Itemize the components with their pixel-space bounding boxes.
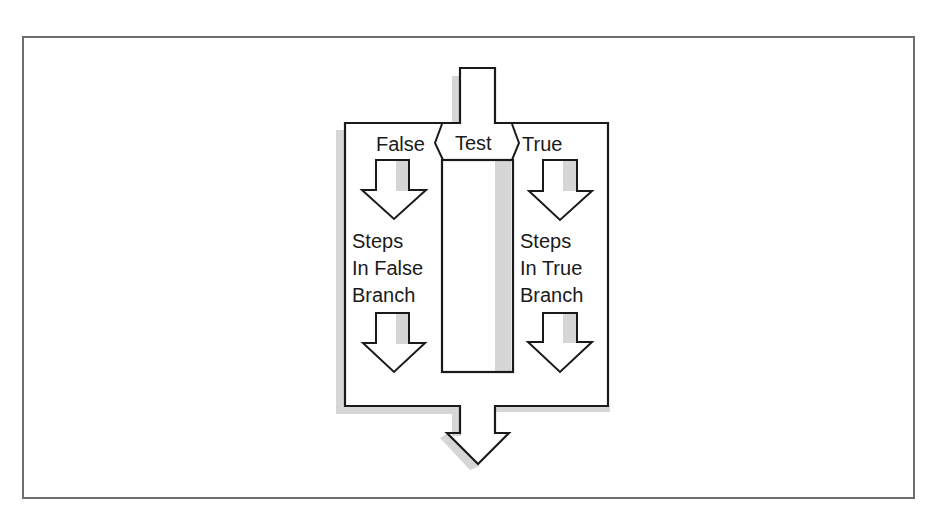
false-branch-text-line-2: In False bbox=[352, 257, 423, 279]
false-branch-text-line-3: Branch bbox=[352, 284, 415, 306]
false-branch-arrow-top-icon bbox=[362, 160, 426, 219]
false-branch-text-line-1: Steps bbox=[352, 230, 403, 252]
true-branch-arrow-top-icon bbox=[529, 160, 592, 220]
if-then-else-diagram: False Test True Steps In False Branch St… bbox=[0, 0, 939, 514]
true-branch-text-line-2: In True bbox=[520, 257, 582, 279]
true-label: True bbox=[522, 133, 562, 155]
true-branch-text-line-3: Branch bbox=[520, 284, 583, 306]
false-branch-arrow-bottom-icon bbox=[363, 313, 425, 372]
true-branch-arrow-bottom-icon bbox=[528, 313, 592, 372]
false-label: False bbox=[376, 133, 425, 155]
true-branch-text-line-1: Steps bbox=[520, 230, 571, 252]
test-label: Test bbox=[455, 132, 492, 154]
